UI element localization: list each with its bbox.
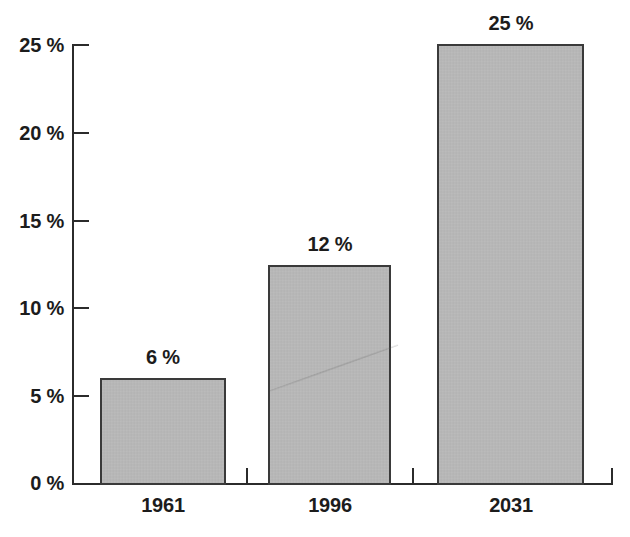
y-tick-mark-10 (74, 307, 89, 309)
y-tick-label-5: 5 % (0, 386, 64, 406)
y-tick-label-15: 15 % (0, 211, 64, 231)
bar-1996 (268, 265, 391, 485)
bar-value-label-1961: 6 % (146, 347, 180, 367)
scan-crease-artifact (270, 344, 398, 392)
bar-2031 (437, 44, 584, 485)
y-tick-mark-15 (74, 220, 89, 222)
bar-chart: 25 % 20 % 15 % 10 % 5 % 0 % 6 % 12 % 25 … (0, 0, 630, 537)
y-tick-label-0: 0 % (0, 473, 64, 493)
bar-value-label-1996: 12 % (308, 234, 353, 254)
y-tick-mark-5 (74, 395, 89, 397)
y-tick-label-25: 25 % (0, 35, 64, 55)
y-tick-label-10: 10 % (0, 298, 64, 318)
y-axis-line (72, 44, 74, 485)
x-axis-end-tick (611, 468, 613, 485)
x-tick-mark-1 (246, 468, 248, 483)
x-axis-label-1996: 1996 (308, 495, 352, 515)
x-axis-label-2031: 2031 (489, 495, 533, 515)
y-tick-mark-20 (74, 132, 89, 134)
bar-value-label-2031: 25 % (489, 13, 534, 33)
y-tick-label-20: 20 % (0, 123, 64, 143)
y-tick-mark-25 (74, 44, 89, 46)
bar-1961 (100, 378, 226, 485)
x-axis-label-1961: 1961 (141, 495, 185, 515)
x-tick-mark-2 (412, 468, 414, 483)
